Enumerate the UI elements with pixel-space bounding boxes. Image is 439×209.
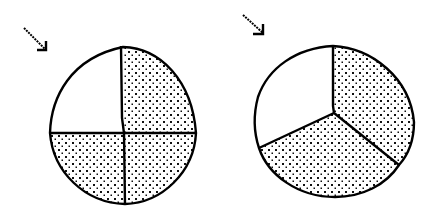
divider-spoke-top	[333, 46, 334, 113]
figure-quarters	[24, 28, 197, 205]
fraction-diagram	[0, 0, 439, 209]
arrow-icon	[243, 15, 263, 33]
arrow-icon	[24, 28, 45, 49]
figure-thirds	[243, 15, 414, 197]
